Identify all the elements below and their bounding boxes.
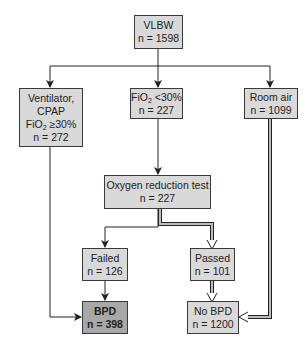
node-ventilator: Ventilator, CPAP FiO2 ≥30% n = 272 [19, 88, 83, 147]
hollow-arrow-roomair [239, 312, 248, 322]
node-vlbw-label: VLBW [144, 19, 174, 32]
node-ventilator-line3: FiO2 ≥30% [26, 118, 77, 131]
node-no-bpd-label: No BPD [194, 305, 232, 318]
node-oxygen-test-label: Oxygen reduction test [106, 179, 208, 192]
node-failed-label: Failed [91, 252, 120, 265]
node-passed-n: n = 101 [195, 265, 230, 278]
node-ventilator-line1: Ventilator, [28, 92, 74, 105]
node-fio2-label: FiO2 <30% [131, 91, 182, 104]
node-room-air-label: Room air [250, 91, 293, 104]
node-failed-n: n = 126 [87, 265, 122, 278]
edge-test-to-failed [105, 208, 158, 247]
edge-room-air-to-nobpd-outer [245, 118, 270, 317]
node-room-air: Room air n = 1099 [244, 88, 298, 119]
node-room-air-n: n = 1099 [250, 104, 291, 117]
node-vlbw: VLBW n = 1598 [134, 15, 183, 49]
node-failed: Failed n = 126 [82, 248, 128, 281]
node-no-bpd: No BPD n = 1200 [187, 301, 239, 334]
node-bpd-label: BPD [94, 305, 116, 318]
fio-text: FiO [26, 118, 43, 130]
connector-lines [0, 0, 305, 348]
node-vlbw-n: n = 1598 [138, 32, 179, 45]
fio-text: FiO [131, 91, 148, 103]
node-no-bpd-n: n = 1200 [192, 318, 233, 331]
threshold-text: <30% [152, 91, 182, 103]
node-bpd: BPD n = 398 [82, 301, 128, 334]
node-passed: Passed n = 101 [190, 248, 235, 281]
node-bpd-n: n = 398 [87, 318, 123, 331]
double-connectors [160, 118, 270, 322]
node-fio2-n: n = 227 [139, 104, 174, 117]
node-passed-label: Passed [195, 252, 230, 265]
threshold-text: ≥30% [47, 118, 77, 130]
node-ventilator-n: n = 272 [33, 131, 68, 144]
edge-test-to-passed-outer [160, 208, 212, 243]
node-ventilator-line2: CPAP [37, 105, 65, 118]
node-oxygen-test-n: n = 227 [140, 192, 175, 205]
node-fio2-low: FiO2 <30% n = 227 [130, 88, 183, 119]
edge-ventilator-to-bpd [50, 146, 81, 317]
node-oxygen-test: Oxygen reduction test n = 227 [104, 175, 211, 209]
